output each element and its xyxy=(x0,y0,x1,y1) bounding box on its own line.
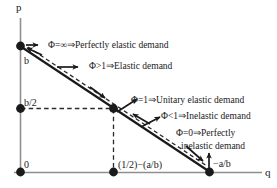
origin-label: 0 xyxy=(24,160,29,170)
point-midpoint-unitary xyxy=(109,104,118,113)
annotation-perfectly-inelastic-line1: Φ=0⇒Perfectly xyxy=(176,129,235,139)
x-axis-label: q xyxy=(265,167,271,178)
point-y-intercept-b xyxy=(16,42,25,51)
y-tick-label-b-half: b/2 xyxy=(24,98,37,108)
elasticity-demand-diagram: p q b b/2 0 (1/2)−(a/b) −a/b Φ=∞⇒Perfect… xyxy=(0,0,277,188)
x-tick-label-intercept: −a/b xyxy=(213,159,231,169)
annotation-elastic: Φ>1⇒Elastic demand xyxy=(89,62,172,72)
x-tick-label-midpoint: (1/2)−(a/b) xyxy=(118,160,162,170)
point-x-midpoint-tick xyxy=(109,168,118,177)
annotation-inelastic: Φ<1⇒Inelastic demand xyxy=(161,112,251,122)
y-axis-label: p xyxy=(16,2,22,13)
y-tick-label-b: b xyxy=(24,56,29,66)
annotation-perfectly-inelastic-line2: inelastic demand xyxy=(181,142,245,152)
annotation-perfectly-elastic: Φ=∞⇒Perfectly elastic demand xyxy=(48,41,168,51)
annotation-unitary-elastic: Φ=1⇒Unitary elastic demand xyxy=(131,96,244,106)
arrow-inelastic xyxy=(133,114,160,127)
